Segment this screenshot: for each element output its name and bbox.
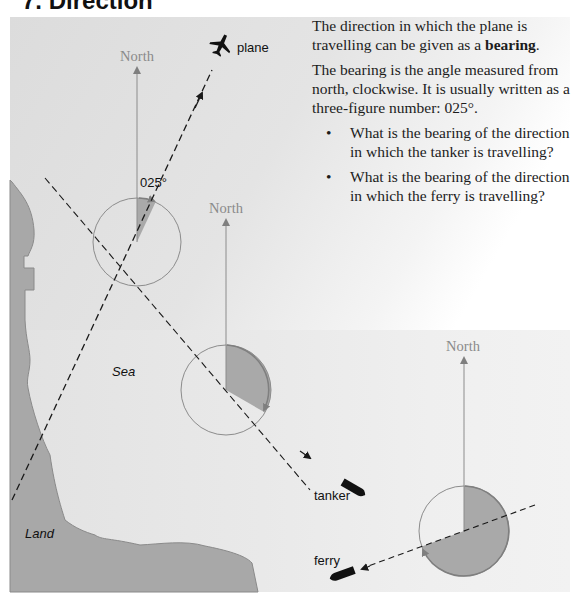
plane-label: plane — [237, 40, 269, 55]
tanker-direction-arrow — [300, 451, 310, 458]
intro-paragraph: The direction in which the plane is trav… — [312, 16, 577, 54]
question-list: • What is the bearing of the direction i… — [312, 123, 577, 205]
definition-paragraph: The bearing is the angle measured from n… — [312, 60, 577, 117]
sea-label: Sea — [112, 364, 135, 379]
question-item: • What is the bearing of the direction i… — [312, 167, 577, 205]
bearing-term: bearing — [485, 36, 536, 53]
plane-path-line — [12, 70, 212, 500]
airplane-icon — [206, 30, 235, 59]
land-label: Land — [25, 526, 55, 541]
tanker-angle-sector — [226, 345, 271, 413]
plane-bearing-circle — [93, 68, 181, 286]
angle-label-025: 025° — [140, 175, 167, 190]
north-label-tanker: North — [209, 200, 244, 216]
tanker-label: tanker — [314, 488, 351, 503]
plane-direction-arrow — [195, 93, 202, 108]
ship-icon — [328, 566, 355, 582]
bullet-icon: • — [326, 167, 331, 186]
tanker-bearing-circle — [181, 220, 271, 435]
question-text: What is the bearing of the direction in … — [350, 168, 570, 204]
question-item: • What is the bearing of the direction i… — [312, 123, 577, 161]
question-text: What is the bearing of the direction in … — [350, 124, 570, 160]
north-label-plane: North — [120, 48, 155, 64]
explanation-text: The direction in which the plane is trav… — [312, 16, 577, 211]
ferry-label: ferry — [314, 553, 341, 568]
north-label-ferry: North — [446, 338, 481, 354]
bullet-icon: • — [326, 123, 331, 142]
plane-angle-sector — [137, 198, 156, 242]
ferry-bearing-circle — [419, 358, 509, 576]
